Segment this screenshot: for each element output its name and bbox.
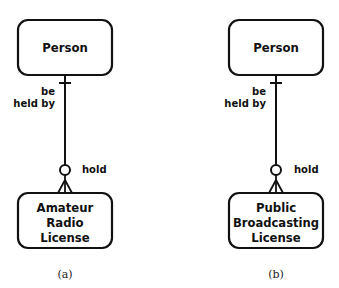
- entity-label-license-a-3: License: [40, 230, 90, 245]
- entity-label-person-b: Person: [253, 40, 299, 55]
- crows-foot-icon: [58, 175, 72, 193]
- role-label-top-a-2: held by: [13, 98, 55, 109]
- er-diagram-canvas: Person be held by hold Amateur Radio Lic…: [0, 0, 339, 288]
- role-label-top-a-1: be: [41, 86, 55, 97]
- caption-a: (a): [57, 268, 72, 281]
- crows-foot-icon: [269, 175, 283, 193]
- zero-circle-icon: [271, 165, 281, 175]
- entity-label-license-a-1: Amateur: [37, 200, 94, 215]
- entity-label-license-b-1: Public: [256, 200, 296, 215]
- diagram-a: Person be held by hold Amateur Radio Lic…: [13, 20, 112, 281]
- role-label-bottom-b: hold: [294, 164, 319, 175]
- role-label-top-b-2: held by: [224, 98, 266, 109]
- caption-b: (b): [268, 268, 284, 281]
- zero-circle-icon: [60, 165, 70, 175]
- entity-label-license-b-3: License: [251, 230, 301, 245]
- diagram-b: Person be held by hold Public Broadcasti…: [224, 20, 323, 281]
- entity-label-person-a: Person: [42, 40, 88, 55]
- entity-label-license-b-2: Broadcasting: [233, 215, 319, 230]
- role-label-top-b-1: be: [252, 86, 266, 97]
- entity-label-license-a-2: Radio: [46, 215, 83, 230]
- role-label-bottom-a: hold: [82, 164, 107, 175]
